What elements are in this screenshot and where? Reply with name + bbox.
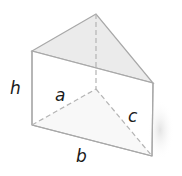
label-a: a	[55, 85, 65, 105]
label-c: c	[128, 106, 138, 126]
label-b: b	[76, 146, 87, 166]
label-h: h	[10, 78, 21, 98]
triangular-prism-diagram: h a c b	[0, 0, 182, 176]
